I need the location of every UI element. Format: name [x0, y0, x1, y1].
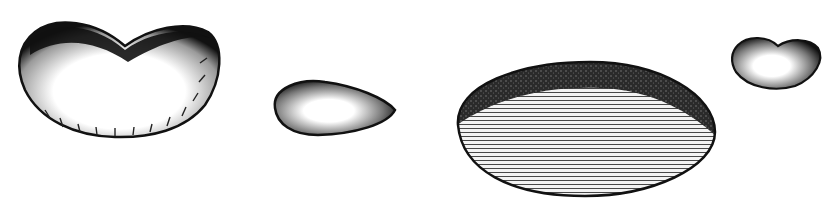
large-bean-figure [19, 23, 219, 138]
small-bean-figure [732, 38, 820, 89]
teardrop-seed-figure [275, 81, 395, 135]
large-oval-seed-figure [450, 55, 720, 200]
seed-illustration-plate [0, 0, 837, 207]
